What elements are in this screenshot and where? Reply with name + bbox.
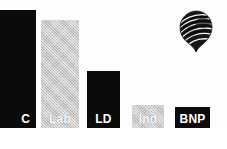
- bar-ind[interactable]: Ind: [132, 105, 164, 128]
- chart-baseline-margin: [0, 128, 227, 149]
- bar-ld[interactable]: LD: [87, 71, 120, 128]
- bar-label-lab: Lab: [41, 113, 79, 126]
- bar-label-ld: LD: [87, 113, 120, 126]
- bar-chart: C Lab LD Ind BNP: [0, 0, 227, 149]
- halftone-portrait-mark-icon: [177, 9, 215, 53]
- bar-label-ind: Ind: [132, 113, 164, 126]
- bar-c[interactable]: C: [0, 10, 36, 128]
- bar-label-bnp: BNP: [175, 113, 210, 126]
- bar-lab[interactable]: Lab: [41, 20, 79, 128]
- bar-bnp[interactable]: BNP: [175, 107, 210, 128]
- bar-label-c: C: [0, 113, 36, 126]
